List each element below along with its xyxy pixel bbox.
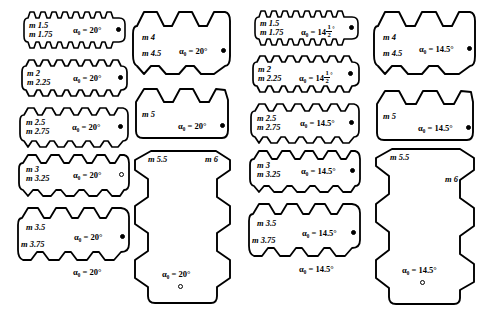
pressure-angle-label: α₀ = 20° (179, 47, 207, 56)
pressure-angle-label: α₀ = 14.5° (300, 119, 335, 128)
gear-block-b4: m 3 m 3.25 α₀ = 20° (18, 149, 134, 201)
pressure-angle-label: α₀ = 20° (178, 122, 206, 131)
center-dot-marker (466, 125, 471, 130)
pressure-angle-label: α₀ = 14.5° (302, 229, 337, 238)
center-dot-marker (116, 27, 121, 32)
module-label: m 1.75 (260, 28, 284, 37)
gear-block-b10: m 2 m 2.25 α₀ = 1412° (251, 50, 364, 98)
center-dot-marker (348, 71, 353, 76)
fraction-denominator: 2 (326, 32, 331, 39)
module-label: m 3.75 (21, 240, 45, 249)
pressure-angle-label: α₀ = 14.5° (418, 124, 453, 133)
center-dot-marker (221, 48, 226, 53)
center-dot-marker (351, 230, 356, 235)
module-label: m 2.25 (27, 78, 51, 87)
gear-block-b8: m 5.5 m 6 α₀ = 20° (131, 148, 236, 308)
center-dot-marker (350, 168, 355, 173)
gear-block-b7: m 5 α₀ = 20° (133, 86, 233, 148)
pressure-angle-label: α₀ = 1412° (299, 70, 333, 84)
column-footer-angle-label: α₀ = 20° (73, 268, 101, 277)
angle-base-text: α₀ = 14 (301, 27, 326, 37)
module-label: m 3.5 (257, 219, 276, 228)
angle-fraction: 12 (324, 70, 329, 84)
center-dot-marker (119, 172, 124, 177)
gear-block-b16: m 5.5 m 6 α₀ = 14.5° (372, 146, 480, 308)
pressure-angle-label: α₀ = 20° (72, 123, 100, 132)
module-label: m 2.25 (258, 74, 282, 83)
gear-block-b6: m 4 m 4.5 α₀ = 20° (133, 8, 233, 78)
gear-block-b3: m 2.5 m 2.75 α₀ = 20° (19, 102, 133, 152)
module-label: m 3.25 (26, 174, 50, 183)
pressure-angle-label: α₀ = 20° (162, 270, 190, 279)
module-label: m 5 (142, 110, 155, 119)
module-label: m 4 (383, 33, 396, 42)
gear-block-b15: m 5 α₀ = 14.5° (374, 88, 478, 150)
gear-block-b12: m 3 m 3.25 α₀ = 14.5° (249, 145, 365, 197)
pressure-angle-label: α₀ = 20° (73, 26, 101, 35)
module-label: m 6 (205, 155, 218, 164)
gear-block-b14: m 4 m 4.5 α₀ = 14.5° (374, 8, 478, 78)
pressure-angle-label: α₀ = 14.5° (301, 167, 336, 176)
center-dot-marker (178, 284, 183, 289)
pressure-angle-label: α₀ = 14.5° (402, 266, 437, 275)
gear-block-b2: m 2 m 2.25 α₀ = 20° (20, 54, 132, 102)
module-label: m 5 (383, 112, 396, 121)
angle-fraction: 12 (326, 24, 331, 38)
gear-block-b5: m 3.5 m 3.75 α₀ = 20° (17, 202, 135, 264)
pressure-angle-label: α₀ = 14.5° (419, 45, 454, 54)
center-dot-marker (349, 120, 354, 125)
center-dot-marker (467, 46, 472, 51)
module-label: m 2.75 (26, 127, 50, 136)
module-label: m 4 (142, 33, 155, 42)
module-label: m 4.5 (383, 49, 402, 58)
module-label: m 3.25 (257, 170, 281, 179)
module-label: m 3.5 (26, 223, 45, 232)
module-label: m 6 (445, 175, 458, 184)
gear-block-b9: m 1.5 m 1.75 α₀ = 1412° (253, 6, 363, 50)
center-dot-marker (220, 123, 225, 128)
pressure-angle-label: α₀ = 20° (74, 233, 102, 242)
module-label: m 1.75 (29, 30, 53, 39)
degree-symbol: ° (332, 26, 334, 32)
gear-block-b13: m 3.5 m 3.75 α₀ = 14.5° (248, 198, 366, 260)
module-label: m 3.75 (252, 236, 276, 245)
degree-symbol: ° (330, 72, 332, 78)
gear-block-b1: m 1.5 m 1.75 α₀ = 20° (22, 6, 130, 54)
fraction-denominator: 2 (324, 78, 329, 85)
angle-base-text: α₀ = 14 (299, 73, 324, 83)
module-label: m 5.5 (390, 153, 409, 162)
gear-block-b11: m 2.5 m 2.75 α₀ = 14.5° (250, 98, 364, 148)
center-dot-marker (120, 234, 125, 239)
gear-profile-figure: m 1.5 m 1.75 α₀ = 20° m 2 m 2.25 α₀ = 20… (0, 0, 485, 314)
center-dot-marker (118, 75, 123, 80)
column-footer-angle-label: α₀ = 14.5° (299, 265, 334, 274)
center-dot-marker (420, 280, 425, 285)
module-label: m 2.75 (257, 123, 281, 132)
pressure-angle-label: α₀ = 20° (73, 171, 101, 180)
center-dot-marker (118, 124, 123, 129)
center-dot-marker (349, 25, 354, 30)
pressure-angle-label: α₀ = 20° (73, 74, 101, 83)
module-label: m 5.5 (148, 155, 167, 164)
pressure-angle-label: α₀ = 1412° (301, 24, 335, 38)
module-label: m 4.5 (142, 49, 161, 58)
